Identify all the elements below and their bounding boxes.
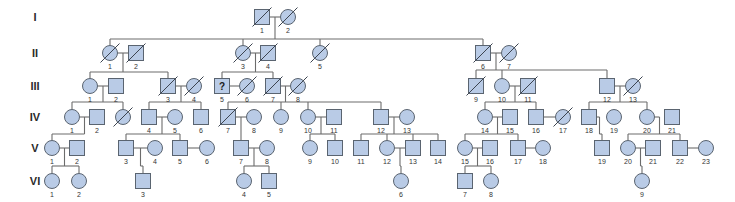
individual-IV-2-square <box>90 110 105 125</box>
individual-III-1-circle <box>83 79 98 94</box>
individual-number: 11 <box>357 158 364 165</box>
unknown-status-mark: ? <box>219 81 225 92</box>
individual-V-10-square <box>328 141 343 156</box>
individual-V-16-square <box>483 141 498 156</box>
individual-IV-6-square <box>194 110 209 125</box>
individual-number: 8 <box>252 127 256 134</box>
individual-V-22-square <box>673 141 688 156</box>
individual-number: 1 <box>88 96 92 103</box>
individual-number: 15 <box>461 158 469 165</box>
individual-IV-18-square <box>582 110 597 125</box>
individual-number: 9 <box>474 96 478 103</box>
individual-number: 10 <box>331 158 339 165</box>
individual-number: 11 <box>330 127 337 134</box>
individual-number: 9 <box>308 158 312 165</box>
individual-number: 23 <box>702 158 710 165</box>
individual-V-2-square <box>70 141 85 156</box>
individual-number: 2 <box>75 158 79 165</box>
individual-number: 1 <box>50 191 54 198</box>
individual-III-12-square <box>600 79 615 94</box>
individual-number: 1 <box>108 63 112 70</box>
individual-V-17-square <box>511 141 526 156</box>
individual-V-23-circle <box>699 141 714 156</box>
individual-IV-5-circle <box>168 110 183 125</box>
individual-VI-4-circle <box>237 174 252 189</box>
individual-number: 20 <box>624 158 632 165</box>
individual-number: 5 <box>267 191 271 198</box>
individual-number: 18 <box>539 158 547 165</box>
individual-number: 1 <box>260 27 264 34</box>
individual-IV-8-circle <box>247 110 262 125</box>
individual-number: 4 <box>242 191 246 198</box>
individual-IV-12-square <box>374 110 389 125</box>
individual-number: 17 <box>514 158 522 165</box>
individual-V-20-circle <box>621 141 636 156</box>
individual-number: 7 <box>463 191 467 198</box>
individual-V-19-square <box>595 141 610 156</box>
individual-V-15-circle <box>458 141 473 156</box>
individual-number: 2 <box>95 127 99 134</box>
individual-IV-13-circle <box>400 110 415 125</box>
individual-VI-5-square <box>262 174 277 189</box>
individual-V-6-circle <box>200 141 215 156</box>
individual-number: 9 <box>279 127 283 134</box>
individual-III-10-circle <box>495 79 510 94</box>
individual-V-7-square <box>234 141 249 156</box>
individual-V-1-circle <box>45 141 60 156</box>
individual-VI-1-circle <box>45 174 60 189</box>
individual-number: 5 <box>318 63 322 70</box>
individual-V-12-circle <box>380 141 395 156</box>
individual-number: 4 <box>147 127 151 134</box>
individual-number: 3 <box>124 158 128 165</box>
individual-IV-16-square <box>529 110 544 125</box>
individual-number: 2 <box>134 63 138 70</box>
individual-number: 15 <box>506 127 514 134</box>
individual-number: 6 <box>481 63 485 70</box>
individual-IV-11-square <box>327 110 342 125</box>
individual-number: 6 <box>399 191 403 198</box>
individual-V-8-circle <box>260 141 275 156</box>
individual-VI-9-circle <box>635 174 650 189</box>
individual-V-21-square <box>646 141 661 156</box>
individual-number: 19 <box>598 158 606 165</box>
individual-IV-21-square <box>665 110 680 125</box>
individual-IV-1-circle <box>65 110 80 125</box>
individual-number: 11 <box>524 96 531 103</box>
individual-VI-8-circle <box>484 174 499 189</box>
individual-number: 7 <box>271 96 275 103</box>
individual-VI-6-circle <box>394 174 409 189</box>
individual-V-5-square <box>173 141 188 156</box>
individual-number: 4 <box>266 63 270 70</box>
individual-IV-10-circle <box>301 110 316 125</box>
individual-number: 4 <box>153 158 157 165</box>
individual-number: 5 <box>178 158 182 165</box>
individual-IV-15-square <box>503 110 518 125</box>
individual-number: 12 <box>377 127 385 134</box>
individual-number: 13 <box>403 127 411 134</box>
individual-number: 6 <box>205 158 209 165</box>
individual-number: 2 <box>286 27 290 34</box>
individual-number: 6 <box>199 127 203 134</box>
individual-number: 19 <box>610 127 618 134</box>
pedigree-chart: I12II1234567III1234?5678910111213IV12456… <box>0 0 735 202</box>
individual-V-13-square <box>406 141 421 156</box>
individual-number: 9 <box>640 191 644 198</box>
individual-number: 2 <box>114 96 118 103</box>
individual-VI-3-square <box>136 174 151 189</box>
individual-number: 10 <box>498 96 506 103</box>
individual-number: 3 <box>166 96 170 103</box>
individual-V-18-circle <box>536 141 551 156</box>
individual-V-4-circle <box>148 141 163 156</box>
individual-number: 14 <box>434 158 442 165</box>
individual-number: 7 <box>239 158 243 165</box>
individual-number: 5 <box>173 127 177 134</box>
individual-number: 12 <box>383 158 391 165</box>
individual-IV-20-circle <box>640 110 655 125</box>
individual-number: 1 <box>50 158 54 165</box>
individual-number: 10 <box>304 127 312 134</box>
individual-V-11-square <box>354 141 369 156</box>
individual-number: 14 <box>481 127 489 134</box>
individual-number: 4 <box>192 96 196 103</box>
individual-number: 8 <box>489 191 493 198</box>
individual-number: 7 <box>507 63 511 70</box>
